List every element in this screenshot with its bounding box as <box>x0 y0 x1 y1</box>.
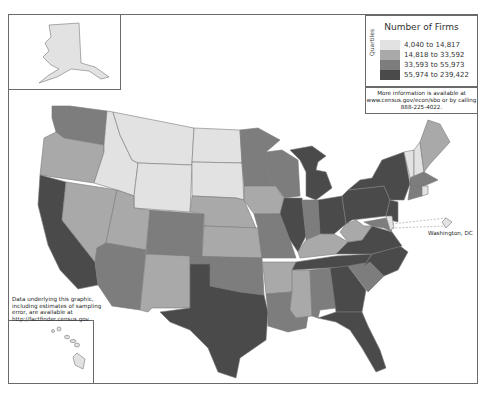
legend-label: 4,040 to 14,817 <box>404 41 460 49</box>
state-nm[interactable] <box>140 254 190 312</box>
legend-item: 14,818 to 33,592 <box>380 50 464 60</box>
legend-axis-label: Quartiles <box>368 26 375 56</box>
dc-callout-line <box>392 218 446 224</box>
state-co[interactable] <box>146 210 204 258</box>
state-ri[interactable] <box>422 186 428 196</box>
state-oh[interactable] <box>318 196 346 234</box>
state-ar[interactable] <box>262 262 296 294</box>
legend-label: 33,593 to 55,973 <box>404 61 464 69</box>
state-dc[interactable] <box>442 218 452 228</box>
state-sd[interactable] <box>192 162 244 200</box>
state-ms[interactable] <box>290 270 312 318</box>
state-ct[interactable] <box>408 186 422 200</box>
state-hi[interactable] <box>52 327 86 369</box>
state-ks[interactable] <box>202 226 262 258</box>
hawaii-inset <box>8 320 94 384</box>
state-ak[interactable] <box>39 23 109 83</box>
info-note: More information is available at www.cen… <box>365 87 478 114</box>
legend-swatch <box>380 50 400 60</box>
state-wy[interactable] <box>134 163 192 212</box>
state-nd[interactable] <box>192 128 242 163</box>
legend-swatch <box>380 70 400 80</box>
state-ia[interactable] <box>244 186 284 214</box>
alaska-inset <box>8 14 121 90</box>
legend-swatch <box>380 40 400 50</box>
legend-swatch <box>380 60 400 70</box>
dc-label: Washington, DC <box>428 230 473 237</box>
legend-item: 55,974 to 239,422 <box>380 70 469 80</box>
legend-item: 4,040 to 14,817 <box>380 40 460 50</box>
dc-callout-line <box>392 226 446 228</box>
state-me[interactable] <box>420 120 450 172</box>
legend-label: 14,818 to 33,592 <box>404 51 464 59</box>
state-az[interactable] <box>95 243 146 310</box>
legend: Number of Firms Quartiles 4,040 to 14,81… <box>365 15 478 87</box>
legend-title: Number of Firms <box>366 22 477 32</box>
legend-label: 55,974 to 239,422 <box>404 71 469 79</box>
legend-item: 33,593 to 55,973 <box>380 60 464 70</box>
data-source-note: Data underlying this graphic, including … <box>12 296 102 322</box>
state-fl[interactable] <box>318 312 386 372</box>
